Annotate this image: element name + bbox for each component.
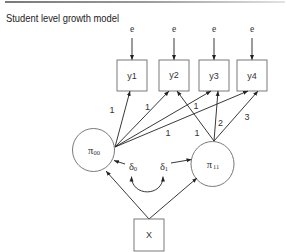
error-label-y2: e: [172, 24, 176, 34]
error-label-y4: e: [250, 24, 254, 34]
observed-label-y1: y1: [127, 71, 137, 81]
observed-variables: y1 y2 y3 y4: [117, 60, 267, 91]
disturbance-subscript-delta1: 1: [165, 165, 168, 172]
latent-variables: π00 π11: [73, 129, 235, 187]
covariate: X: [106, 171, 197, 251]
loading-arrow-pi00-y4: [115, 91, 248, 147]
loading-value-pi00-y1: 1: [109, 105, 114, 115]
covariance-curve-arrow: [132, 177, 164, 192]
disturbances: δ0 δ1: [114, 160, 192, 192]
loading-value-pi00-y2: 1: [145, 102, 150, 112]
loading-value-pi00-y4: 1: [165, 128, 170, 138]
growth-model-diagram: Student level growth model e e e e y1 y2…: [0, 0, 287, 252]
covariate-arrow-pi11: [149, 178, 197, 219]
error-label-y1: e: [130, 24, 134, 34]
covariate-arrow-pi00: [106, 171, 149, 219]
disturbance-arrow-delta1: [171, 160, 192, 164]
observed-label-y4: y4: [247, 71, 257, 81]
disturbance-subscript-delta0: 0: [134, 165, 137, 172]
observed-label-y2: y2: [169, 70, 179, 80]
loading-arrow-pi11-y3: [214, 91, 218, 141]
covariate-label-x: X: [146, 230, 152, 240]
disturbance-label-delta0: δ0: [129, 161, 137, 172]
loading-value-pi11-y3: 2: [218, 118, 223, 128]
loading-value-pi00-y3: 1: [193, 101, 198, 111]
disturbance-arrow-delta0: [114, 161, 125, 165]
error-label-y3: e: [212, 24, 216, 34]
latent-subscript-pi11: 11: [213, 163, 219, 170]
latent-subscript-pi00: 00: [93, 149, 100, 156]
loading-value-pi11-y4: 3: [244, 112, 249, 122]
observed-label-y3: y3: [209, 71, 219, 81]
loading-arrow-pi11-y4: [214, 91, 258, 141]
loading-arrow-pi00-y3: [115, 91, 211, 147]
intercept-loadings: 1 1 1 1: [109, 91, 248, 147]
loading-arrow-pi00-y2: [115, 91, 169, 147]
error-terms: e e e e: [130, 24, 254, 60]
latent-symbol-pi11: π: [207, 159, 213, 170]
diagram-title: Student level growth model: [6, 12, 119, 24]
loading-value-pi11-y2: 1: [194, 128, 199, 138]
disturbance-label-delta1: δ1: [160, 161, 168, 172]
